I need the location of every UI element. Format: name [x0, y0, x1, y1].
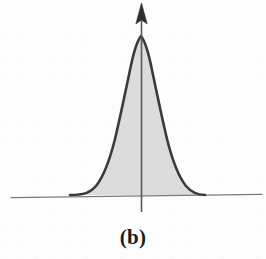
figure-panel-b: (b) — [0, 0, 266, 259]
gaussian-curve-figure — [0, 0, 266, 259]
figure-caption: (b) — [0, 224, 266, 250]
curve-fill-area — [70, 36, 205, 195]
